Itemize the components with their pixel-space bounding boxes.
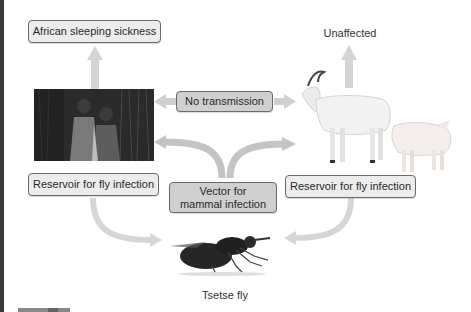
arrow-vector-to-animals	[230, 137, 296, 178]
unaffected-label: Unaffected	[314, 27, 386, 39]
disease-label-box: African sleeping sickness	[28, 20, 161, 43]
tsetse-fly-art	[166, 226, 278, 276]
caption-fragment-2	[48, 306, 70, 312]
arrow-up-disease	[87, 46, 103, 90]
tsetse-fly-photo	[166, 226, 278, 276]
no-transmission-box: No transmission	[176, 91, 273, 112]
tsetse-fly-label: Tsetse fly	[190, 289, 260, 301]
arrow-reservoir-right-to-fly	[284, 198, 351, 245]
disease-label: African sleeping sickness	[33, 25, 157, 38]
reservoir-right-label: Reservoir for fly infection	[290, 180, 411, 193]
children-photo	[34, 89, 154, 161]
arrow-reservoir-left-to-fly	[93, 198, 162, 247]
reservoir-left-label: Reservoir for fly infection	[33, 178, 154, 191]
reservoir-left-box: Reservoir for fly infection	[28, 173, 159, 196]
vector-label-line2: mammal infection	[180, 198, 266, 211]
vector-label-line1: Vector for	[199, 185, 246, 198]
children-photo-art	[34, 89, 154, 161]
no-transmission-label: No transmission	[185, 95, 264, 108]
diagram: African sleeping sickness Unaffected No …	[4, 0, 471, 312]
vector-box: Vector for mammal infection	[169, 182, 277, 213]
goat-and-pig-photo	[288, 64, 460, 176]
reservoir-right-box: Reservoir for fly infection	[285, 175, 416, 198]
goat-and-pig-art	[288, 64, 460, 176]
arrow-vector-to-human	[154, 135, 222, 178]
